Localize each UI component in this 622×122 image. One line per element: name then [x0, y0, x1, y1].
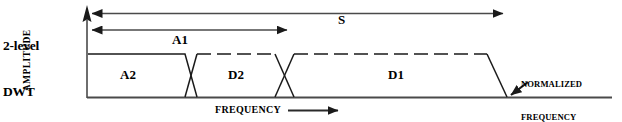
band-label-d2: D2	[228, 68, 244, 83]
band-d1-rolloff-edge	[487, 54, 507, 97]
nyquist-annotation-line-2: FREQUENCY	[521, 112, 582, 122]
band-label-s: S	[338, 13, 345, 28]
y-axis-label: AMPLITUDE	[22, 20, 33, 100]
nyquist-annotation: NORMALIZED FREQUENCY (NYQUIST = 1)	[521, 57, 582, 122]
band-label-a1: A1	[172, 33, 188, 48]
dwt-frequency-bands-figure: 2-level DWT freq. bands AMPLITUDE FREQUE…	[0, 0, 622, 122]
band-label-a2: A2	[120, 68, 136, 83]
band-label-d1: D1	[388, 68, 404, 83]
x-axis-label: FREQUENCY	[215, 104, 281, 115]
nyquist-annotation-line-1: NORMALIZED	[521, 79, 582, 90]
band-envelopes	[88, 54, 507, 97]
y-axis-arrowhead	[83, 5, 92, 22]
band-a2-outline	[88, 54, 197, 97]
